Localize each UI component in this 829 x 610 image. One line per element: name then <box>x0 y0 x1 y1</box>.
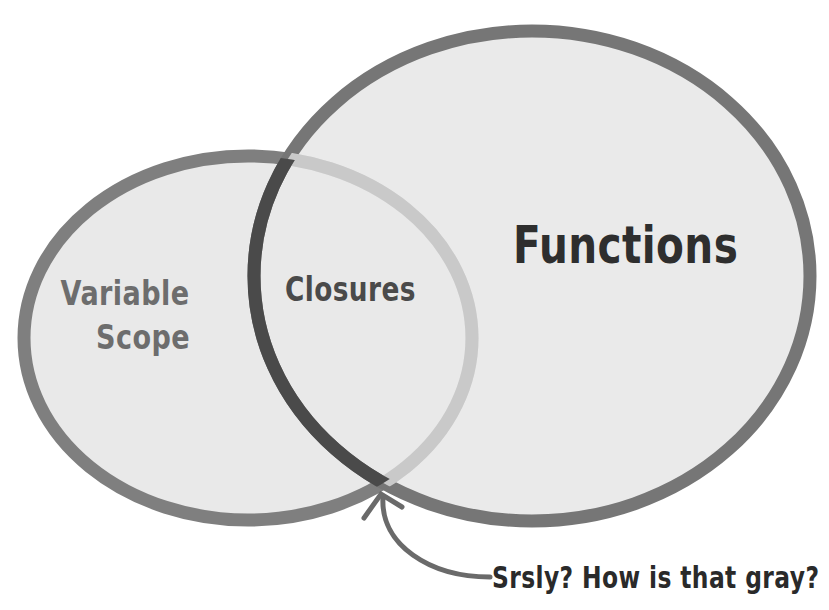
closures-label: Closures <box>285 270 416 309</box>
variable-scope-label-line1: Variable <box>60 272 190 316</box>
callout-annotation: Srsly? How is that gray? <box>492 560 819 595</box>
functions-label: Functions <box>513 215 738 275</box>
variable-scope-label: Variable Scope <box>60 272 190 360</box>
variable-scope-label-line2: Scope <box>60 316 190 360</box>
